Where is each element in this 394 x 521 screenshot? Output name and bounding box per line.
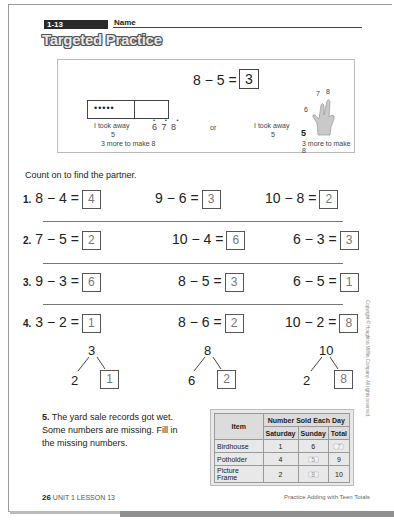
question-5: 5. The yard sale records got wet. Some n… [42,411,182,450]
hand-three-fingers-icon [310,97,340,137]
problem-4a: 4. 3 − 2 =1 [23,314,101,333]
problem-2b: 10 − 4 =6 [172,231,245,250]
name-line [113,27,362,28]
problem-number: 1. [23,194,31,205]
answer-box[interactable]: 2 [319,190,338,209]
problem-1c: 10 − 8 =2 [265,190,338,209]
bond-part: 6 [188,373,195,388]
name-label: Name [114,18,136,27]
problem-number: 2. [23,235,31,246]
problem-4b: 8 − 6 =2 [178,314,244,333]
page-shadow [120,511,394,517]
yard-sale-table: Item Number Sold Each Day Saturday Sunda… [214,413,350,483]
hand-took-away-value: 5 [271,131,275,138]
expression: 6 − 3 = [293,231,337,247]
cell-total: 10 [328,466,349,483]
finger-label-6: 6 [304,106,308,113]
answer-box[interactable]: 3 [202,190,221,209]
problem-number: 3. [23,277,31,288]
cell-item: Picture Frame [215,466,264,483]
example-equation: 8 − 5 = [193,72,237,88]
bond-answer-box[interactable]: 8 [334,370,353,389]
page-shadow [10,511,122,514]
expression: 9 − 6 = [155,190,199,206]
expression: 9 − 3 = [35,273,79,289]
expression: 10 − 2 = [285,314,336,330]
cell-saturday: 4 [263,453,298,466]
expression: 10 − 4 = [172,231,223,247]
cell-saturday: 2 [263,466,298,483]
cell-item: Birdhouse [215,440,264,453]
expression: 8 − 5 = [178,273,222,289]
header-saturday: Saturday [263,427,298,440]
problem-2a: 2. 7 − 5 =2 [23,231,101,250]
frame-divider [134,101,135,118]
finger-label-7: 7 [316,90,320,97]
count-on-numbers: 6 7 8 [152,122,177,132]
number-bond-3: 10 2 8 [305,343,365,393]
problem-number: 4. [23,318,31,329]
footer-left: 26 UNIT 1 LESSON 13 [42,493,115,502]
answer-box[interactable]: 6 [82,273,101,292]
problem-3a: 3. 9 − 3 =6 [23,273,101,292]
took-away-label: I took away [94,122,129,129]
bond-answer-box[interactable]: 1 [100,370,119,389]
expression: 3 − 2 = [35,314,79,330]
answer-box[interactable]: 8 [339,314,358,333]
cell-total: 9 [328,453,349,466]
instruction-text: Count on to find the partner. [25,170,137,180]
expression: 8 − 4 = [35,190,79,206]
copyright-text: Copyright © Houghton Mifflin Company. Al… [365,300,370,417]
problem-2c: 6 − 3 =3 [293,231,359,250]
hand-took-away-label: I took away [254,122,289,129]
example-box: 8 − 5 = 3 ••••• • • • I took away 6 7 8 … [57,59,355,153]
problem-3c: 6 − 5 =1 [293,273,359,292]
page-number: 26 [42,493,51,502]
missing-value-blob[interactable]: 8 [308,471,319,478]
hand-start-number: 5 [301,128,306,138]
header-total: Total [328,427,349,440]
cell-item: Potholder [215,453,264,466]
yard-sale-table-card: Item Number Sold Each Day Saturday Sunda… [210,409,354,486]
finger-label-8: 8 [326,88,330,95]
missing-value-blob[interactable]: 5 [308,456,319,463]
answer-box[interactable]: 3 [225,273,244,292]
bond-answer-box[interactable]: 2 [217,370,236,389]
took-away-value: 5 [111,131,115,138]
or-label: or [210,124,216,131]
question-number: 5. [42,412,50,422]
row-divider [43,221,343,222]
problem-4c: 10 − 2 =8 [285,314,358,333]
answer-box[interactable]: 3 [340,231,359,250]
frame-dots: ••••• [94,103,115,113]
example-answer-box: 3 [239,69,259,89]
question-text: The yard sale records got wet. Some numb… [42,412,178,448]
cell-saturday: 1 [263,440,298,453]
row-divider [43,263,343,264]
cell-sunday: 6 [298,440,328,453]
table-row: Potholder 4 5 9 [215,453,350,466]
answer-box[interactable]: 1 [340,273,359,292]
answer-box[interactable]: 4 [82,190,101,209]
answer-box[interactable]: 1 [82,314,101,333]
problem-3b: 8 − 5 =3 [178,273,244,292]
answer-box[interactable]: 6 [226,231,245,250]
header-item: Item [215,414,264,440]
expression: 7 − 5 = [35,231,79,247]
answer-box[interactable]: 2 [82,231,101,250]
header-sunday: Sunday [298,427,328,440]
number-bond-2: 8 6 2 [188,343,248,393]
answer-box[interactable]: 2 [225,314,244,333]
expression: 10 − 8 = [265,190,316,206]
expression: 6 − 5 = [293,273,337,289]
more-to-make-label: 3 more to make 8 [101,140,155,147]
bond-part: 2 [303,373,310,388]
hand-more-to-make-label: 3 more to make 8 [302,140,354,154]
bond-part: 2 [71,373,78,388]
missing-value-blob[interactable]: 7 [333,443,344,450]
page-title: Targeted Practice [42,31,162,48]
lesson-tag: 1-13 [44,20,108,29]
problem-1b: 9 − 6 =3 [155,190,221,209]
table-row: Birdhouse 1 6 7 [215,440,350,453]
footer-right: Practice Adding with Teen Totals [284,494,370,500]
